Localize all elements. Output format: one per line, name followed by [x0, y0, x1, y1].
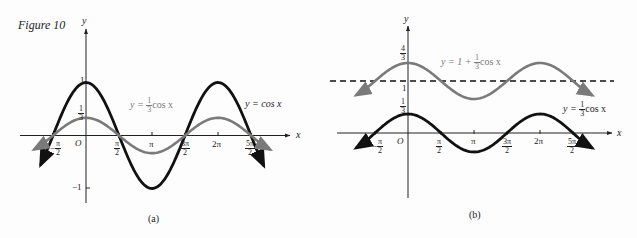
x-tick-2pi: 2π: [212, 140, 221, 149]
y-axis-label: y: [404, 14, 408, 24]
figure-title: Figure 10: [18, 19, 65, 31]
panel-b-caption: (b): [469, 210, 481, 220]
origin-label: O: [397, 137, 404, 146]
x-axis-label: x: [617, 128, 621, 138]
y-tick-four-thirds: 43: [400, 44, 406, 62]
label-third-cos-x: y = 13cos x: [563, 101, 606, 118]
y-tick-neg-1: −1: [72, 183, 82, 192]
x-tick-pi-over-2: π2: [114, 140, 120, 157]
x-tick-neg-pi-over-2: −π2: [50, 140, 61, 157]
panel-a: [20, 29, 290, 203]
y-tick-1: 1: [402, 84, 407, 93]
x-axis-label: x: [296, 130, 300, 140]
x-tick-5pi-over-2: 5π2: [567, 138, 577, 155]
label-cos-x: y = cos x: [245, 99, 281, 109]
label-third-cos-x: y = 13cos x: [130, 97, 173, 114]
x-tick-2pi: 2π: [534, 137, 543, 146]
x-tick-3pi-over-2: 3π2: [180, 140, 190, 157]
y-tick-1: 1: [80, 76, 85, 85]
x-tick-pi: π: [471, 137, 476, 146]
y-tick-one-third: 13: [78, 104, 84, 122]
x-tick-neg-pi-over-2: −π2: [372, 138, 383, 155]
x-tick-pi: π: [149, 140, 154, 149]
panel-a-caption: (a): [148, 214, 159, 224]
figure-canvas: Figure 10 y x O 1 13 −1 −π2 π2 π 3π2 2π …: [0, 0, 637, 238]
x-tick-5pi-over-2: 5π2: [245, 140, 255, 157]
origin-label: O: [75, 139, 82, 148]
x-tick-3pi-over-2: 3π2: [502, 138, 512, 155]
y-axis-label: y: [82, 16, 86, 26]
y-tick-one-third: 13: [400, 97, 406, 115]
x-tick-pi-over-2: π2: [436, 138, 442, 155]
figure-graphics: [0, 0, 637, 238]
label-one-plus-third-cos-x: y = 1 + 13cos x: [441, 54, 501, 71]
